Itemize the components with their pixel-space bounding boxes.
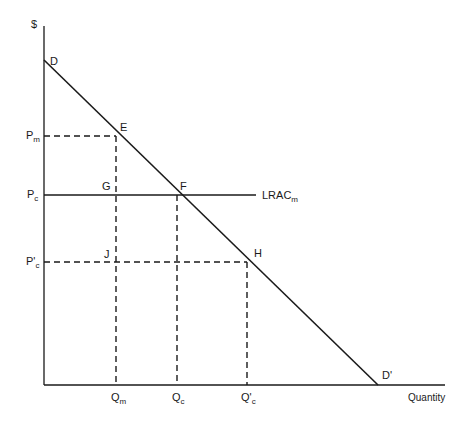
quantity-label-qm-sub: m	[120, 397, 127, 406]
point-j-label: J	[104, 248, 110, 260]
demand-start-label: D	[50, 55, 58, 67]
price-label-pc-sub: c	[34, 194, 38, 203]
y-axis-label: $	[31, 18, 37, 30]
lrac-label-main: LRAC	[262, 189, 291, 201]
quantity-label-qc: Qc	[172, 391, 185, 405]
price-label-pm-sub: m	[33, 135, 40, 144]
lrac-label-sub: m	[291, 195, 298, 204]
point-f-label: F	[180, 180, 187, 192]
point-g-label: G	[102, 180, 111, 192]
quantity-label-qc-prime-sub: c	[252, 397, 256, 406]
lrac-label: LRACm	[262, 189, 298, 203]
point-h-label: H	[254, 247, 262, 259]
quantity-label-qc-main: Q	[172, 391, 181, 403]
diagram-canvas	[0, 0, 469, 423]
quantity-label-qm: Qm	[111, 391, 126, 405]
price-label-pc-prime: P'c	[26, 255, 39, 269]
x-axis-label: Quantity	[408, 392, 445, 404]
price-label-pm: Pm	[26, 129, 40, 143]
price-label-pc-prime-sub: c	[35, 261, 39, 270]
price-label-pc: Pc	[27, 188, 38, 202]
point-e-label: E	[120, 121, 127, 133]
quantity-label-qc-prime: Q'c	[241, 391, 256, 405]
quantity-label-qc-sub: c	[181, 397, 185, 406]
demand-curve	[44, 60, 378, 385]
demand-end-label: D'	[382, 369, 392, 381]
quantity-label-qm-main: Q	[111, 391, 120, 403]
quantity-label-qc-prime-main: Q'	[241, 391, 252, 403]
